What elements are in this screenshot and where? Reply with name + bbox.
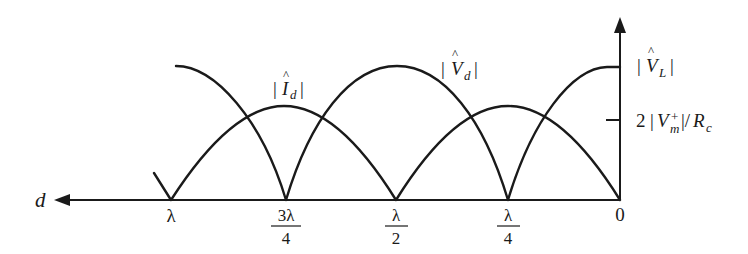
svg-text:^: ^ bbox=[283, 67, 289, 82]
svg-text:m: m bbox=[670, 121, 679, 136]
x-tick-half-lambda: λ 2 bbox=[385, 206, 408, 248]
x-tick-zero: 0 bbox=[615, 204, 625, 225]
svg-text:|: | bbox=[650, 110, 654, 131]
horizontal-axis-arrowhead-icon bbox=[54, 194, 70, 206]
standing-wave-diagram: d | I ^ d | | V ^ d | | V ^ L | 2 | V + … bbox=[0, 0, 748, 254]
svg-text:^: ^ bbox=[452, 46, 458, 61]
svg-text:R: R bbox=[692, 110, 705, 131]
svg-text:|: | bbox=[441, 58, 445, 79]
svg-text:4: 4 bbox=[504, 229, 513, 248]
svg-text:|/: |/ bbox=[681, 110, 691, 131]
svg-text:λ: λ bbox=[166, 205, 176, 226]
svg-text:V: V bbox=[657, 110, 671, 131]
x-tick-lambda: λ bbox=[166, 205, 176, 226]
svg-text:|: | bbox=[273, 78, 277, 99]
svg-text:0: 0 bbox=[615, 204, 625, 225]
svg-text:|: | bbox=[474, 58, 478, 79]
svg-text:|: | bbox=[637, 55, 641, 76]
svg-text:V: V bbox=[451, 58, 465, 79]
svg-text:c: c bbox=[706, 120, 712, 135]
svg-text:λ: λ bbox=[392, 206, 401, 225]
current-magnitude-curve bbox=[154, 106, 620, 200]
svg-text:λ: λ bbox=[504, 206, 513, 225]
svg-text:^: ^ bbox=[648, 43, 654, 58]
voltage-magnitude-curve bbox=[176, 66, 620, 200]
y-label-current-max: 2 | V + m |/ R c bbox=[636, 109, 712, 136]
horizontal-axis-label: d bbox=[35, 188, 46, 212]
y-label-load-voltage: | V ^ L | bbox=[637, 43, 674, 80]
svg-text:2: 2 bbox=[636, 110, 646, 131]
voltage-curve-label: | V ^ d | bbox=[441, 46, 478, 83]
svg-text:V: V bbox=[646, 55, 660, 76]
x-tick-three-quarter-lambda: 3λ 4 bbox=[271, 206, 301, 248]
svg-text:|: | bbox=[670, 55, 674, 76]
svg-text:3λ: 3λ bbox=[278, 206, 296, 225]
x-tick-quarter-lambda: λ 4 bbox=[497, 206, 520, 248]
svg-text:2: 2 bbox=[392, 229, 401, 248]
svg-text:d: d bbox=[464, 68, 471, 83]
vertical-axis-arrowhead-icon bbox=[614, 17, 626, 33]
current-curve-label: | I ^ d | bbox=[273, 67, 304, 102]
svg-text:|: | bbox=[300, 78, 304, 99]
svg-text:L: L bbox=[658, 65, 666, 80]
svg-text:d: d bbox=[290, 87, 297, 102]
svg-text:4: 4 bbox=[282, 229, 291, 248]
